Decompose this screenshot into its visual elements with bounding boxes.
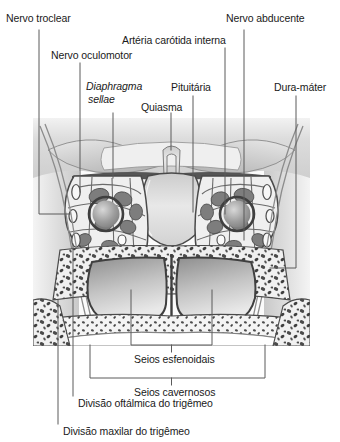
coronal-section-illustration [33,118,310,346]
oculomotor-nerve-left [72,185,80,200]
abducens-nerve-right [217,235,225,245]
label-nervo-oculomotor: Nervo oculomotor [51,49,132,61]
label-nervo-troclear: Nervo troclear [6,12,71,24]
label-dura-mater: Dura-máter [274,81,326,93]
label-arteria-carotida-interna: Artéria carótida interna [122,34,226,46]
anatomy-figure: Nervo troclear Nervo oculomotor Diaphrag… [0,0,340,442]
sphenoid-sinus-left [88,258,167,321]
internal-carotid-artery-right-lumen [224,201,251,228]
label-diaphragma-sellae-line2: sellae [88,93,115,105]
figure-canvas [0,0,340,442]
label-divisao-oftalmica: Divisão oftálmica do trigêmeo [78,397,213,409]
abducens-nerve-left [118,235,126,245]
sphenoid-sinus-right [176,258,255,321]
internal-carotid-artery-left-lumen [93,201,120,228]
oculomotor-nerve-right [263,185,271,200]
label-quiasma: Quiasma [141,101,182,113]
label-pituitaria: Pituitária [171,81,211,93]
label-divisao-maxilar: Divisão maxilar do trigêmeo [63,425,190,437]
label-nervo-abducente: Nervo abducente [226,12,304,24]
label-diaphragma-sellae-line1: Diaphragma [86,80,142,92]
label-seios-esfenoidais: Seios esfenoidais [134,353,215,365]
